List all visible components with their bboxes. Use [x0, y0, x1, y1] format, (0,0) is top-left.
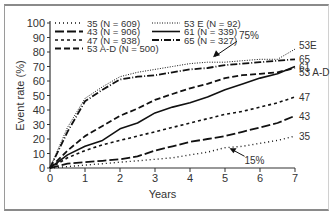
x-tick-label: 4: [187, 172, 193, 184]
series-line-53-a-d: [50, 68, 295, 168]
x-tick-label: 5: [222, 172, 228, 184]
x-axis-label: Years: [149, 188, 177, 200]
series-end-label: 35: [299, 131, 311, 142]
x-tick-label: 6: [257, 172, 263, 184]
series-line-61: [50, 67, 295, 169]
x-tick-label: 7: [292, 172, 298, 184]
x-tick-label: 1: [82, 172, 88, 184]
series-end-label: 47: [299, 92, 311, 103]
arrow-head-icon: [230, 148, 237, 153]
series-line-53e: [50, 49, 295, 168]
series-end-label: 65: [299, 54, 311, 65]
y-tick-label: 80: [33, 46, 45, 58]
series-end-label: 43: [299, 111, 311, 122]
x-tick-label: 0: [47, 172, 53, 184]
y-tick-label: 10: [33, 148, 45, 160]
series-line-65: [50, 59, 295, 168]
y-axis-label: Event rate (%): [14, 60, 26, 130]
y-tick-label: 90: [33, 32, 45, 44]
x-tick-label: 2: [117, 172, 123, 184]
annotation-label: 15%: [245, 155, 265, 166]
y-tick-label: 100: [27, 17, 45, 29]
x-tick-label: 3: [152, 172, 158, 184]
annotation-label: 75%: [239, 30, 259, 41]
y-tick-label: 60: [33, 75, 45, 87]
series-end-label: 53E: [299, 40, 317, 51]
y-tick-label: 0: [39, 162, 45, 174]
y-tick-label: 30: [33, 119, 45, 131]
y-tick-label: 40: [33, 104, 45, 116]
y-tick-label: 50: [33, 90, 45, 102]
y-tick-label: 20: [33, 133, 45, 145]
y-tick-label: 70: [33, 61, 45, 73]
legend-item-label: 65 (N = 327): [184, 35, 237, 46]
event-rate-line-chart: 010203040506070809010001234567YearsEvent…: [0, 0, 332, 215]
legend-item-label: 53 A-D (N = 500): [87, 43, 159, 54]
